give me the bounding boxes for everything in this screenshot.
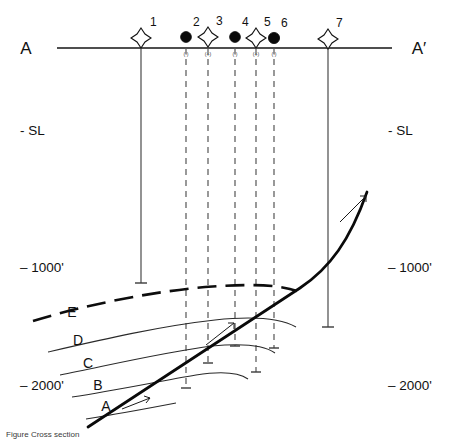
depth-label-left-1000: – 1000': [20, 260, 64, 275]
well-symbol-5[interactable]: [246, 28, 266, 48]
depth-label-right-2000: – 2000': [388, 378, 432, 393]
well-symbol-6[interactable]: [268, 32, 279, 43]
well-number-7: 7: [336, 16, 343, 30]
well-number-4: 4: [242, 15, 249, 29]
depth-label-left-sl: - SL: [20, 123, 45, 138]
well-number-3: 3: [216, 14, 223, 28]
section-end-label: A′: [412, 39, 427, 58]
well-polarity-5: (+): [253, 51, 260, 57]
well-symbol-1[interactable]: [131, 28, 151, 48]
depth-label-right-sl: - SL: [388, 123, 413, 138]
figure-caption: Figure Cross section: [6, 430, 79, 439]
well-number-1: 1: [150, 15, 157, 29]
horizon-label-C: C: [83, 355, 93, 371]
cross-section-figure: A A′: [0, 0, 449, 439]
well-symbol-2[interactable]: [181, 32, 192, 43]
depth-label-left-2000: – 2000': [20, 378, 64, 393]
horizon-label-B: B: [93, 377, 102, 393]
well-symbol-7[interactable]: [318, 29, 338, 49]
well-number-5: 5: [264, 15, 271, 29]
depth-label-right-1000: – 1000': [388, 260, 432, 275]
well-symbol-4[interactable]: [230, 32, 241, 43]
well-polarity-4: (-): [232, 51, 237, 57]
well-symbol-3[interactable]: [198, 27, 218, 47]
well-polarity-3: (+): [205, 51, 212, 57]
well-number-2: 2: [193, 15, 200, 29]
horizon-label-D: D: [73, 332, 83, 348]
fault-slip-arrow-upper: [340, 196, 366, 222]
section-start-label: A: [20, 39, 32, 58]
cross-section-canvas: A A′: [0, 0, 449, 439]
well-polarity-6: (-): [271, 51, 276, 57]
horizon-label-E: E: [67, 304, 76, 320]
horizon-label-A: A: [101, 398, 111, 414]
well-polarity-2: (-): [183, 51, 188, 57]
fault-line: [88, 192, 367, 427]
well-number-6: 6: [281, 16, 288, 30]
